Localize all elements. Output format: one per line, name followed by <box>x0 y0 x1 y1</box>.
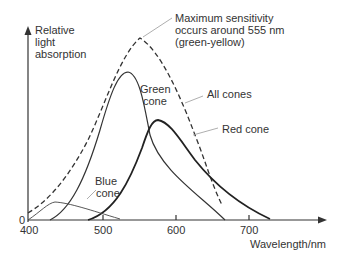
axes <box>28 32 320 222</box>
x-tick-label-400: 400 <box>20 224 38 236</box>
y-axis-label-line2: light <box>35 36 55 48</box>
blue-cone-label-line1: Blue <box>95 175 117 187</box>
x-tick-label-700: 700 <box>240 224 258 236</box>
all-cones-leader-line <box>185 96 203 103</box>
x-axis-label: Wavelength/nm <box>250 238 326 250</box>
all-cones-label: All cones <box>207 88 252 100</box>
max-leader-line <box>143 18 172 37</box>
y-axis-label-line1: Relative <box>35 24 75 36</box>
y-axis-label-line3: absorption <box>35 48 86 60</box>
max-note-line2: occurs around 555 nm <box>175 24 284 36</box>
green-cone-label-line1: Green <box>140 83 171 95</box>
cone-absorption-diagram: Relative light absorption Maximum sensit… <box>0 0 341 261</box>
green-cone-curve <box>50 72 225 220</box>
green-cone-label-line2: cone <box>143 95 167 107</box>
max-note-line3: (green-yellow) <box>175 36 245 48</box>
red-cone-label: Red cone <box>222 123 269 135</box>
x-axis-arrow-icon <box>318 217 327 224</box>
y-axis-arrow-icon <box>25 26 32 35</box>
blue-cone-curve <box>28 202 120 220</box>
red-cone-curve <box>88 120 270 220</box>
blue-cone-leader-line <box>87 190 96 199</box>
x-tick-label-500: 500 <box>94 224 112 236</box>
x-tick-label-600: 600 <box>167 224 185 236</box>
blue-cone-label-line2: cone <box>96 187 120 199</box>
max-note-line1: Maximum sensitivity <box>175 12 274 24</box>
red-cone-leader-line <box>193 128 218 135</box>
